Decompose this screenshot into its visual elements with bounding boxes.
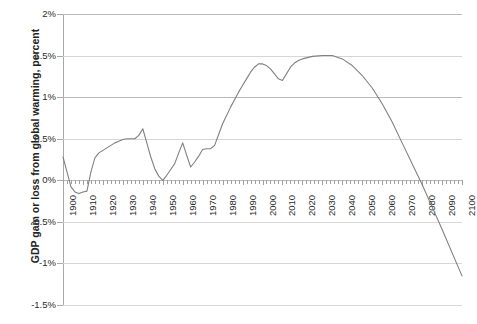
series-path — [63, 56, 462, 276]
